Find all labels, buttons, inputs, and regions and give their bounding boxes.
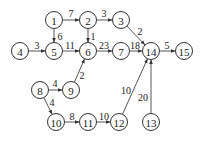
edge-weight-label: 3 (102, 8, 107, 19)
node-label: 14 (146, 46, 158, 58)
node-13: 13 (143, 114, 160, 131)
node-label: 11 (83, 117, 94, 129)
node-5: 5 (46, 43, 63, 60)
node-2: 2 (80, 12, 97, 29)
node-label: 13 (146, 117, 158, 129)
edge-weight-label: 11 (65, 40, 75, 51)
edge-weight-label: 4 (53, 78, 58, 89)
edge-weight-label: 5 (165, 40, 170, 51)
node-label: 7 (118, 46, 124, 58)
node-label: 15 (179, 46, 191, 58)
edge-weight-label: 10 (99, 111, 109, 122)
edge-weight-label: 1 (91, 31, 96, 42)
node-6: 6 (80, 43, 97, 60)
node-label: 12 (114, 117, 125, 129)
node-10: 10 (48, 114, 65, 131)
node-label: 10 (51, 117, 63, 129)
edge-weight-label: 7 (69, 8, 74, 19)
edge-weight-label: 10 (121, 85, 131, 96)
node-9: 9 (63, 82, 80, 99)
node-8: 8 (32, 82, 49, 99)
node-3: 3 (113, 12, 130, 29)
edge-weight-label: 2 (138, 26, 143, 37)
node-12: 12 (111, 114, 128, 131)
edge-weight-label: 23 (99, 40, 109, 51)
directed-weighted-graph: 73612311231852448101020 1234567141589101… (0, 0, 203, 145)
edge-weight-label: 18 (130, 40, 140, 51)
node-15: 15 (176, 43, 193, 60)
node-label: 9 (68, 85, 74, 97)
edge-weight-label: 4 (50, 97, 55, 108)
node-label: 1 (51, 15, 57, 27)
node-1: 1 (46, 12, 63, 29)
node-label: 2 (85, 15, 91, 27)
node-14: 14 (143, 43, 160, 60)
node-label: 4 (17, 46, 23, 58)
node-7: 7 (113, 43, 130, 60)
node-label: 6 (85, 46, 91, 58)
edge-weight-label: 20 (138, 92, 148, 103)
edge-weight-label: 3 (35, 40, 40, 51)
node-label: 3 (118, 15, 124, 27)
node-4: 4 (12, 43, 29, 60)
edge-weight-label: 2 (80, 70, 85, 81)
edge-weight-label: 8 (70, 111, 75, 122)
edge-weight-label: 6 (58, 31, 63, 42)
node-label: 5 (51, 46, 57, 58)
node-11: 11 (80, 114, 97, 131)
node-label: 8 (37, 85, 43, 97)
